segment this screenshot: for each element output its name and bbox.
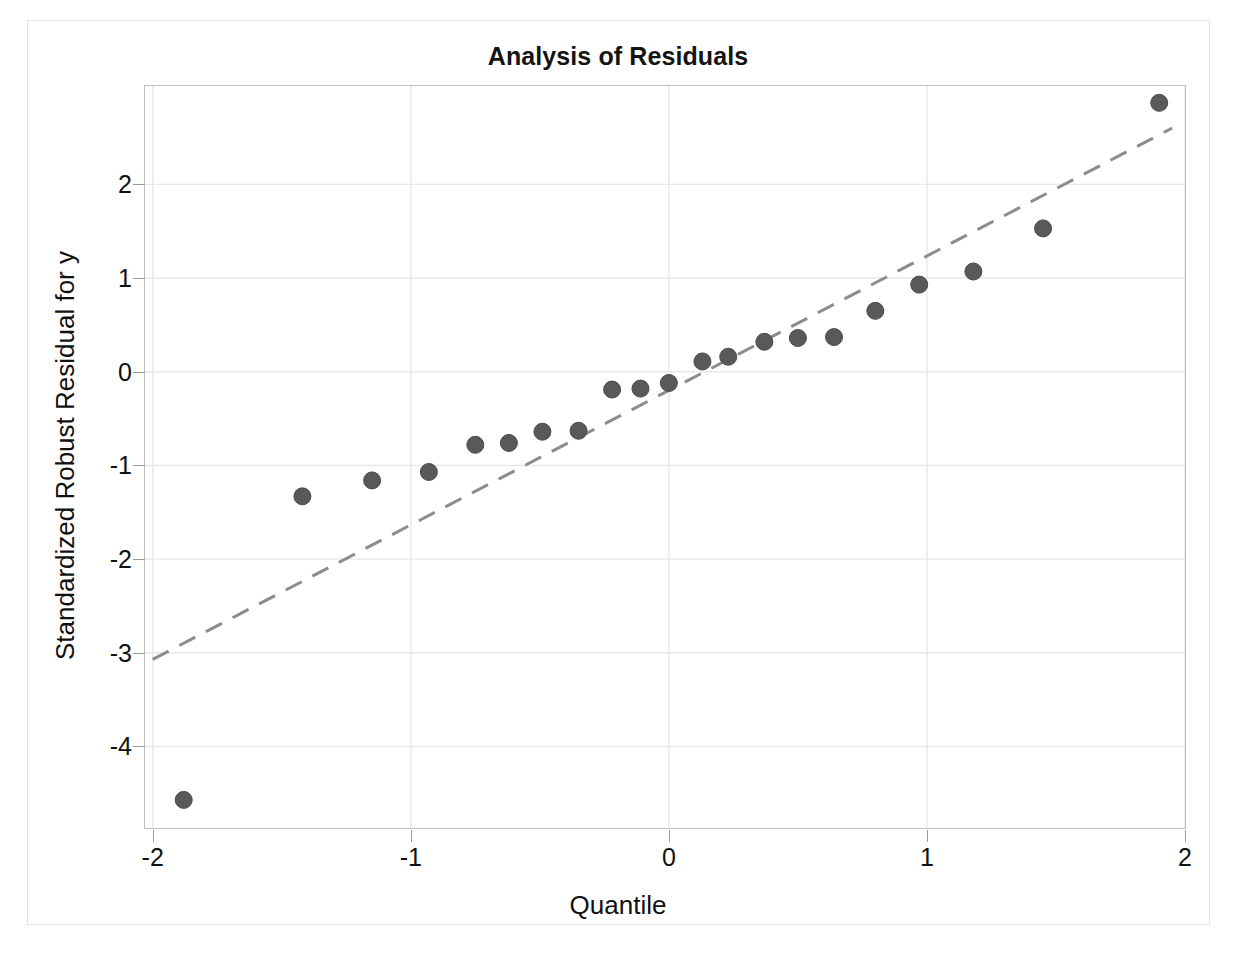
data-point-marker [965, 263, 982, 280]
data-point-marker [694, 353, 711, 370]
y-tick-mark [133, 372, 145, 373]
data-point-marker [467, 436, 484, 453]
x-tick-label: 0 [639, 843, 699, 872]
data-point-marker [604, 381, 621, 398]
chart-page: Analysis of Residuals 210-1-2-3-4 -2-101… [0, 0, 1236, 963]
data-point-marker [364, 472, 381, 489]
x-tick-mark [411, 830, 412, 842]
data-point-marker [660, 374, 677, 391]
x-tick-label: -2 [123, 843, 183, 872]
y-axis-tick-labels: 210-1-2-3-4 [74, 0, 132, 963]
page-title: Analysis of Residuals [0, 42, 1236, 71]
scatter-plot-svg [145, 86, 1185, 828]
data-point-marker [867, 302, 884, 319]
y-tick-label: 0 [88, 357, 132, 386]
y-tick-label: -4 [88, 732, 132, 761]
x-axis-title: Quantile [0, 890, 1236, 921]
x-tick-label: 1 [897, 843, 957, 872]
x-tick-label: -1 [381, 843, 441, 872]
data-point-marker [175, 791, 192, 808]
y-tick-mark [133, 559, 145, 560]
y-tick-label: 2 [88, 170, 132, 199]
data-point-marker [1035, 220, 1052, 237]
data-point-marker [789, 330, 806, 347]
data-point-marker [720, 348, 737, 365]
y-tick-label: -1 [88, 451, 132, 480]
data-point-marker [570, 422, 587, 439]
reference-line-segment [153, 128, 1172, 659]
data-points [175, 94, 1167, 808]
data-point-marker [756, 333, 773, 350]
gridlines [145, 86, 1185, 828]
plot-area [144, 85, 1186, 829]
x-tick-label: 2 [1155, 843, 1215, 872]
x-tick-mark [927, 830, 928, 842]
y-axis-title: Standardized Robust Residual for y [50, 146, 81, 766]
y-tick-mark [133, 184, 145, 185]
y-tick-label: 1 [88, 264, 132, 293]
y-tick-label: -2 [88, 545, 132, 574]
data-point-marker [1151, 94, 1168, 111]
data-point-marker [500, 434, 517, 451]
y-tick-mark [133, 653, 145, 654]
y-tick-mark [133, 465, 145, 466]
x-axis-tick-labels: -2-1012 [0, 843, 1236, 883]
data-point-marker [632, 380, 649, 397]
x-tick-mark [153, 830, 154, 842]
y-tick-mark [133, 746, 145, 747]
data-point-marker [826, 329, 843, 346]
data-point-marker [294, 488, 311, 505]
x-tick-mark [1185, 830, 1186, 842]
y-tick-mark [133, 278, 145, 279]
reference-line [153, 128, 1172, 659]
x-tick-mark [669, 830, 670, 842]
data-point-marker [911, 276, 928, 293]
y-tick-label: -3 [88, 638, 132, 667]
data-point-marker [420, 463, 437, 480]
data-point-marker [534, 423, 551, 440]
